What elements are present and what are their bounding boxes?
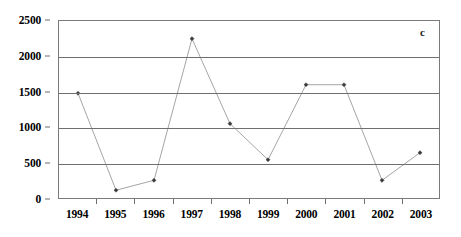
panel-label: c (420, 26, 425, 38)
data-point-marker (342, 83, 346, 87)
x-tick-mark (173, 199, 174, 204)
y-tick-mark (45, 55, 50, 56)
gridline (59, 164, 439, 165)
x-tick-mark (402, 199, 403, 204)
x-axis: 1994199519961997199819992000200120022003 (58, 208, 440, 228)
data-point-marker (152, 178, 156, 182)
x-tick-label: 1998 (219, 208, 241, 220)
x-tick-mark (325, 199, 326, 204)
x-tick-label: 1994 (66, 208, 88, 220)
x-tick-label: 2003 (410, 208, 432, 220)
x-tick-mark (287, 199, 288, 204)
y-tick-mark (45, 127, 50, 128)
series-svg (59, 21, 439, 198)
data-point-marker (114, 188, 118, 192)
y-tick-mark (45, 20, 50, 21)
x-tick-label: 1997 (181, 208, 203, 220)
gridline (59, 57, 439, 58)
x-tick-label: 1996 (142, 208, 164, 220)
chart-screenshot: 05001000150020002500 c 19941995199619971… (0, 0, 461, 237)
y-tick-mark (45, 199, 50, 200)
gridline (59, 93, 439, 94)
x-tick-mark (96, 199, 97, 204)
x-tick-mark (364, 199, 365, 204)
y-tick-mark (45, 91, 50, 92)
x-tick-mark (249, 199, 250, 204)
y-tick-mark (45, 163, 50, 164)
series-line (78, 39, 420, 191)
gridline (59, 128, 439, 129)
y-axis: 05001000150020002500 (0, 20, 50, 199)
data-point-marker (190, 37, 194, 41)
y-tick-label: 0 (35, 193, 41, 205)
y-tick-label: 2000 (19, 50, 41, 62)
x-tick-label: 1995 (104, 208, 126, 220)
y-tick-label: 1000 (19, 121, 41, 133)
x-tick-label: 2000 (295, 208, 317, 220)
x-tick-label: 1999 (257, 208, 279, 220)
plot-area: c (58, 20, 440, 199)
x-tick-mark (211, 199, 212, 204)
x-tick-mark (134, 199, 135, 204)
y-tick-label: 500 (24, 157, 41, 169)
x-axis-ticks (58, 199, 440, 205)
data-point-marker (304, 83, 308, 87)
y-tick-label: 1500 (19, 86, 41, 98)
y-tick-label: 2500 (19, 14, 41, 26)
x-tick-label: 2001 (333, 208, 355, 220)
x-tick-label: 2002 (372, 208, 394, 220)
